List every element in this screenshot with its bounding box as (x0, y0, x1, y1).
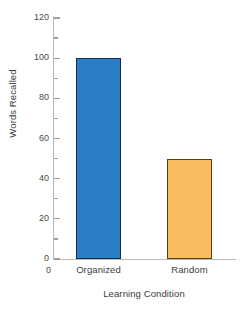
y-tick-label: 120 (15, 13, 49, 22)
bar-chart-figure: Words Recalled 020406080100120 0 Organiz… (0, 0, 250, 309)
bar-organized (76, 58, 121, 259)
x-axis-line (53, 259, 236, 260)
plot-area (53, 18, 235, 259)
bar-random (167, 159, 212, 259)
y-tick-label: 0 (15, 254, 49, 263)
y-tick-label: 20 (15, 214, 49, 223)
x-category-label: Organized (49, 264, 149, 275)
x-category-label: Random (140, 264, 240, 275)
y-tick-label: 100 (15, 53, 49, 62)
x-axis-title: Learning Condition (53, 288, 235, 299)
y-tick-label: 60 (15, 134, 49, 143)
y-tick-label: 40 (15, 174, 49, 183)
y-tick-label: 80 (15, 93, 49, 102)
